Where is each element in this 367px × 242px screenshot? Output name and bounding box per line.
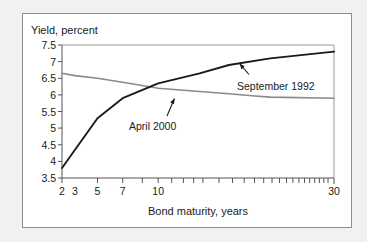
plot-frame: [62, 45, 334, 178]
y-tick-label: 4.5: [41, 139, 56, 151]
y-axis-tick-labels: 7.5 7 6.5 6 5.5 5 4.5 4 3.5: [41, 39, 56, 184]
y-axis-title: Yield, percent: [31, 24, 98, 36]
annotation-label-september-1992: September 1992: [237, 80, 315, 92]
x-axis-minor-ticks: [62, 178, 334, 184]
x-tick-label: 30: [328, 185, 340, 197]
annotation-april-2000: April 2000: [129, 99, 176, 133]
annotation-september-1992: September 1992: [237, 64, 315, 93]
figure-root: Yield, percent 7: [0, 0, 367, 242]
annotation-label-april-2000: April 2000: [129, 120, 176, 132]
x-axis-tick-labels: 2 3 5 7 10 30: [59, 185, 340, 197]
x-tick-label: 5: [95, 185, 101, 197]
y-tick-label: 5: [50, 122, 56, 134]
x-tick-label: 7: [120, 185, 126, 197]
yield-curve-chart: Yield, percent 7: [23, 14, 351, 227]
x-tick-label: 3: [72, 185, 78, 197]
y-tick-label: 7: [50, 56, 56, 68]
y-tick-label: 6.5: [41, 72, 56, 84]
y-tick-label: 5.5: [41, 106, 56, 118]
y-tick-label: 6: [50, 89, 56, 101]
figure-card: Yield, percent 7: [22, 13, 352, 228]
y-tick-label: 4: [50, 155, 56, 167]
y-axis-ticks: [58, 45, 62, 178]
x-tick-label: 2: [59, 185, 65, 197]
x-tick-label: 10: [152, 185, 164, 197]
y-tick-label: 3.5: [41, 172, 56, 184]
series-line-september-1992: [62, 52, 334, 168]
x-axis-title: Bond maturity, years: [148, 205, 249, 217]
y-tick-label: 7.5: [41, 39, 56, 51]
